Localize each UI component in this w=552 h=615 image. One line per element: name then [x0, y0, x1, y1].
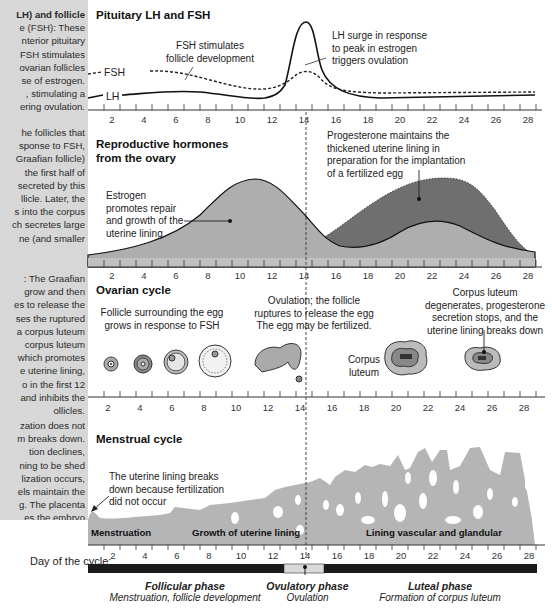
note-line: uterine lining [106, 228, 183, 241]
fsh-note: FSH stimulates follicle development [150, 40, 270, 65]
band-label-growth: Growth of uterine lining [192, 527, 300, 538]
band-label-vascular: Lining vascular and glandular [366, 527, 502, 538]
corpus-luteum-label: Corpus luteum [344, 354, 384, 379]
tick-label: 24 [454, 114, 474, 125]
tick-label: 4 [135, 550, 155, 561]
note-line: thickened uterine lining in [327, 143, 465, 156]
title-line: Reproductive hormones [96, 137, 228, 151]
tick-label: 6 [166, 114, 186, 125]
tick-label: 18 [358, 270, 378, 281]
phase-bar-luteal [324, 564, 537, 573]
ovary-hormones-title: Reproductive hormones from the ovary [96, 137, 228, 165]
follicle-day4 [134, 355, 152, 373]
axis-band [88, 258, 535, 267]
tick-label: 6 [167, 550, 187, 561]
tick-label: 4 [134, 270, 154, 281]
tick-label: 16 [327, 550, 347, 561]
tick-label: 20 [386, 402, 406, 413]
note-line: degenerates, progesterone [410, 300, 552, 313]
tick-label: 14 [295, 550, 315, 561]
tick-label: 16 [326, 270, 346, 281]
tick-label: 12 [258, 402, 278, 413]
tick-label: 12 [262, 270, 282, 281]
tick-label: 18 [359, 550, 379, 561]
axis-ticks [104, 104, 536, 110]
tick-label: 4 [134, 114, 154, 125]
note-line: The uterine lining breaks [109, 471, 224, 484]
tick-label: 10 [230, 114, 250, 125]
note-line: luteum [344, 367, 384, 380]
phase-luteal: Luteal phase Formation of corpus luteum [370, 580, 510, 604]
pituitary-title: Pituitary LH and FSH [96, 8, 210, 22]
tick-label: 18 [358, 114, 378, 125]
title-line: from the ovary [96, 151, 228, 165]
ovarian-cycle-title: Ovarian cycle [96, 283, 171, 297]
tick-label: 26 [486, 114, 506, 125]
phase-bar-follicular [88, 564, 284, 573]
note-line: FSH stimulates [150, 40, 270, 53]
tick-label: 20 [390, 270, 410, 281]
degenerates-dot [482, 350, 486, 354]
phase-name: Ovulatory phase [265, 580, 350, 592]
estrogen-dot [228, 219, 232, 223]
phase-desc: Formation of corpus luteum [370, 592, 510, 604]
degenerates-note: Corpus luteum degenerates, progesterone … [410, 287, 552, 337]
tick-label: 28 [514, 402, 534, 413]
tick-label: 2 [102, 270, 122, 281]
lh-note-pointer [305, 58, 326, 65]
band-label-menstruation: Menstruation [91, 527, 151, 538]
tick-label: 10 [226, 402, 246, 413]
note-line: follicle development [150, 53, 270, 66]
tick-label: 14 [290, 402, 310, 413]
note-line: ruptures to release the egg [244, 308, 384, 321]
note-line: LH surge in response [332, 30, 427, 43]
tick-label: 4 [130, 402, 150, 413]
tick-label: 20 [391, 550, 411, 561]
note-line: did not occur [109, 496, 224, 509]
estrogen-note: Estrogen promotes repair and growth of t… [106, 190, 183, 240]
follicle-day6 [164, 350, 188, 374]
tick-label: 24 [455, 550, 475, 561]
note-line: grows in response to FSH [92, 320, 232, 333]
tick-label: 22 [422, 270, 442, 281]
note-line: down because fertilization [109, 484, 224, 497]
tick-label: 12 [263, 550, 283, 561]
fsh-curve-label: FSH [104, 66, 125, 79]
note-line: Follicle surrounding the egg [92, 307, 232, 320]
note-line: Progesterone maintains the [327, 130, 465, 143]
phase-follicular: Follicular phase Menstruation, follicle … [100, 580, 270, 604]
note-line: uterine lining breaks down [410, 325, 552, 338]
follicle-day8 [199, 345, 231, 377]
tick-label: 12 [262, 114, 282, 125]
note-line: Estrogen [106, 190, 183, 203]
follicle-note: Follicle surrounding the egg grows in re… [92, 307, 232, 332]
tick-label: 20 [390, 114, 410, 125]
tick-label: 22 [422, 114, 442, 125]
tick-label: 22 [423, 550, 443, 561]
corpus-luteum-day20 [385, 341, 427, 375]
note-line: preparation for the implantation [327, 155, 465, 168]
note-line: Ovulation; the follicle [244, 295, 384, 308]
phase-desc: Ovulation [265, 592, 350, 604]
tick-label: 16 [326, 114, 346, 125]
tick-label: 18 [354, 402, 374, 413]
tick-label: 28 [519, 550, 539, 561]
note-line: Corpus luteum [410, 287, 552, 300]
tick-label: 6 [162, 402, 182, 413]
note-line: promotes repair [106, 203, 183, 216]
ovulation-note: Ovulation; the follicle ruptures to rele… [244, 295, 384, 333]
tick-label: 26 [487, 550, 507, 561]
tick-label: 24 [450, 402, 470, 413]
note-line: The egg may be fertilized. [244, 320, 384, 333]
tick-label: 8 [199, 550, 219, 561]
note-line: of a fertilized egg [327, 168, 465, 181]
day-of-cycle-label: Day of the cycle: [30, 555, 111, 567]
phase-desc: Menstruation, follicle development [100, 592, 270, 604]
note-line: to peak in estrogen [332, 43, 427, 56]
tick-label: 8 [194, 402, 214, 413]
fsh-curve [88, 71, 535, 93]
note-line: secretion stops, and the [410, 312, 552, 325]
tick-label: 26 [486, 270, 506, 281]
tick-label: 16 [322, 402, 342, 413]
tick-label: 8 [198, 114, 218, 125]
